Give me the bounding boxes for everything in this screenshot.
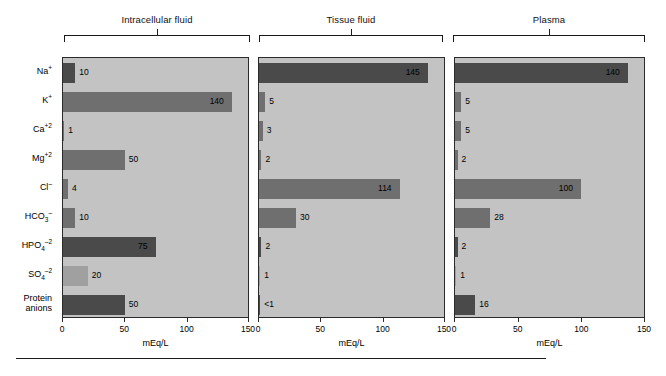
bar-value-label: 2 xyxy=(462,155,467,164)
bar-value-label: 16 xyxy=(479,300,488,309)
bar-value-label: 1 xyxy=(264,271,269,280)
bars-plasma: 140552100282116 xyxy=(455,58,644,317)
bar-row: 28 xyxy=(455,208,644,228)
bar-value-label: 2 xyxy=(265,242,270,251)
x-tick xyxy=(62,318,63,322)
bar xyxy=(63,63,75,83)
panel-title-intracellular-fluid: Intracellular fluid xyxy=(64,14,250,25)
x-tick xyxy=(187,318,188,322)
category-label-Mg2: Mg+2 xyxy=(32,153,52,164)
bars-tissue-fluid: 1455321143021<1 xyxy=(259,58,444,317)
bracket-leg-left xyxy=(64,35,65,42)
bar xyxy=(259,63,428,83)
bracket-leg-left xyxy=(453,35,454,42)
category-axis-labels: Na+K+Ca+2Mg+2Cl–HCO3–HPO4–2SO4–2Proteina… xyxy=(0,57,52,318)
x-axis-title: mEq/L xyxy=(338,338,364,348)
bar-value-label: 140 xyxy=(210,97,229,106)
bar-value-label: <1 xyxy=(264,300,274,309)
bar-value-label: 50 xyxy=(129,300,138,309)
bar xyxy=(259,237,261,257)
category-label-Na: Na+ xyxy=(37,66,52,77)
bar xyxy=(455,237,458,257)
bar-value-label: 114 xyxy=(378,184,397,193)
x-tick-label: 150 xyxy=(437,324,451,334)
bar-row: 2 xyxy=(259,150,444,170)
bar-value-label: 50 xyxy=(129,155,138,164)
bar xyxy=(259,92,265,112)
x-tick-label: 100 xyxy=(180,324,194,334)
bar-row: 2 xyxy=(455,150,644,170)
bar-row: 4 xyxy=(63,179,248,199)
x-tick-label: 150 xyxy=(637,324,651,334)
panel-bracket-plasma xyxy=(453,29,645,41)
bar-row: 140 xyxy=(455,63,644,83)
bar-row: 20 xyxy=(63,266,248,286)
bar-value-label: 5 xyxy=(465,126,470,135)
panel-title-plasma: Plasma xyxy=(453,14,645,25)
bar-row: 3 xyxy=(259,121,444,141)
x-tick xyxy=(644,318,645,322)
x-tick xyxy=(248,318,249,322)
bar-row: 145 xyxy=(259,63,444,83)
bar-row: 5 xyxy=(259,92,444,112)
bar-row: <1 xyxy=(259,295,444,315)
footer-divider xyxy=(16,358,546,359)
bar-value-label: 75 xyxy=(138,242,152,251)
x-axis-plasma: 050100150mEq/L xyxy=(454,318,645,340)
category-label-HCO3: HCO3– xyxy=(25,211,52,222)
bar-row: 2 xyxy=(259,237,444,257)
bar xyxy=(455,150,458,170)
x-tick-label: 50 xyxy=(513,324,522,334)
bracket-top-line xyxy=(259,35,443,36)
bar xyxy=(63,121,64,141)
x-axis-intracellular-fluid: 050100150mEq/L xyxy=(62,318,249,340)
bar-row: 1 xyxy=(259,266,444,286)
bar-value-label: 10 xyxy=(79,68,88,77)
x-tick xyxy=(454,318,455,322)
bar-value-label: 5 xyxy=(465,97,470,106)
bar xyxy=(455,63,628,83)
x-tick xyxy=(383,318,384,322)
bar xyxy=(259,266,260,286)
bracket-leg-right xyxy=(249,35,250,42)
x-tick xyxy=(518,318,519,322)
bar xyxy=(63,295,125,315)
bar xyxy=(63,150,125,170)
category-label-SO42: SO4–2 xyxy=(28,269,52,280)
panel-bracket-intracellular-fluid xyxy=(64,29,250,41)
bar-row: 2 xyxy=(455,237,644,257)
panel-bracket-tissue-fluid xyxy=(259,29,443,41)
x-tick-label: 100 xyxy=(376,324,390,334)
x-tick-label: 0 xyxy=(256,324,261,334)
x-tick-label: 50 xyxy=(120,324,129,334)
category-label-Proteinanions: Proteinanions xyxy=(23,293,52,314)
x-tick-label: 50 xyxy=(316,324,325,334)
bracket-leg-left xyxy=(259,35,260,42)
category-label-Cl: Cl– xyxy=(40,182,52,193)
x-tick xyxy=(124,318,125,322)
bar xyxy=(259,150,261,170)
bars-intracellular-fluid: 10140150410752050 xyxy=(63,58,248,317)
bar-row: 50 xyxy=(63,150,248,170)
bar-value-label: 5 xyxy=(269,97,274,106)
panel-header-plasma: Plasma xyxy=(453,14,645,41)
bar-row: 5 xyxy=(455,92,644,112)
bar-row: 114 xyxy=(259,179,444,199)
category-label-Ca2: Ca+2 xyxy=(33,124,52,135)
bar xyxy=(63,266,88,286)
x-tick xyxy=(581,318,582,322)
x-tick-label: 150 xyxy=(241,324,255,334)
bar-row: 50 xyxy=(63,295,248,315)
bar-row: 30 xyxy=(259,208,444,228)
bracket-top-line xyxy=(64,35,250,36)
bar-row: 1 xyxy=(455,266,644,286)
bar-row: 16 xyxy=(455,295,644,315)
bracket-leg-right xyxy=(644,35,645,42)
bar-value-label: 1 xyxy=(68,126,73,135)
bar xyxy=(63,179,68,199)
bar-row: 10 xyxy=(63,208,248,228)
x-tick xyxy=(258,318,259,322)
bar-value-label: 100 xyxy=(559,184,578,193)
x-tick xyxy=(444,318,445,322)
bar-value-label: 20 xyxy=(92,271,101,280)
